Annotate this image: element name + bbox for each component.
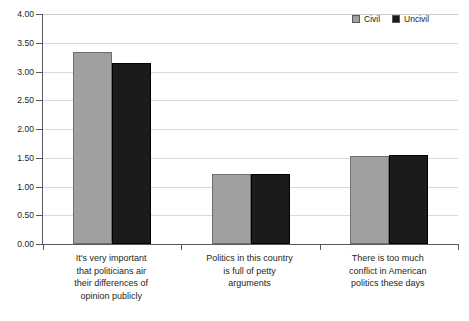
y-axis-label: 0.00 (17, 240, 34, 249)
category-label-line: that politicians air (42, 265, 180, 278)
category-label-line: conflict in American (319, 265, 457, 278)
y-axis-label: 1.00 (17, 182, 34, 191)
category-label-line: is full of petty (180, 265, 318, 278)
y-axis-label: 2.50 (17, 96, 34, 105)
x-axis-end-tick (458, 244, 459, 250)
category-label-line: opinion publicly (42, 290, 180, 303)
plot-area: 0.000.501.001.502.002.503.003.504.00 (42, 14, 458, 245)
category-label-line: There is too much (319, 252, 457, 265)
y-axis-label: 2.00 (17, 125, 34, 134)
category-label-line: It's very important (42, 252, 180, 265)
y-axis-tick (36, 129, 43, 130)
y-axis-tick (36, 187, 43, 188)
category-label-line: arguments (180, 277, 318, 290)
x-axis-category-label-1: It's very importantthat politicians airt… (42, 252, 180, 302)
y-axis-tick (36, 158, 43, 159)
x-axis-category-label-2: Politics in this countryis full of petty… (180, 252, 318, 290)
y-axis-tick (36, 100, 43, 101)
bar-civil-group-3 (350, 156, 389, 244)
y-axis-tick (36, 72, 43, 73)
gridline (43, 14, 458, 15)
y-axis-label: 3.50 (17, 38, 34, 47)
bar-civil-group-2 (212, 174, 251, 244)
x-axis-separator (181, 244, 182, 250)
bar-uncivil-group-1 (112, 63, 151, 244)
category-label-line: Politics in this country (180, 252, 318, 265)
y-axis-label: 1.50 (17, 153, 34, 162)
bar-civil-group-1 (73, 52, 112, 244)
bar-uncivil-group-2 (251, 174, 290, 244)
y-axis-tick (36, 244, 43, 245)
x-axis-category-label-3: There is too muchconflict in Americanpol… (319, 252, 457, 290)
y-axis-label: 4.00 (17, 10, 34, 19)
bar-uncivil-group-3 (389, 155, 428, 244)
category-label-line: their differences of (42, 277, 180, 290)
y-axis-tick (36, 14, 43, 15)
bar-chart: Civil Uncivil 0.000.501.001.502.002.503.… (0, 0, 469, 321)
x-axis-separator (320, 244, 321, 250)
y-axis-tick (36, 43, 43, 44)
gridline (43, 43, 458, 44)
x-axis-end-tick (43, 244, 44, 250)
y-axis-label: 0.50 (17, 211, 34, 220)
y-axis-tick (36, 215, 43, 216)
y-axis-label: 3.00 (17, 67, 34, 76)
category-label-line: politics these days (319, 277, 457, 290)
